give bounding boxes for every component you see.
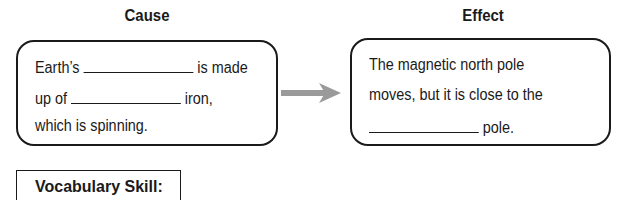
- effect-box: The magnetic north pole moves, but it is…: [350, 38, 611, 146]
- cause-blank-2[interactable]: [71, 87, 181, 104]
- cause-heading: Cause: [94, 6, 200, 26]
- cause-line-3: which is spinning.: [35, 117, 148, 135]
- effect-blank[interactable]: [369, 116, 479, 133]
- cause-blank-1[interactable]: [84, 56, 194, 73]
- vocabulary-skill-label: Vocabulary Skill:: [35, 178, 163, 196]
- vocabulary-skill-box: Vocabulary Skill:: [16, 170, 181, 200]
- effect-line-2: moves, but it is close to the: [369, 86, 543, 104]
- effect-line-3: pole.: [369, 116, 514, 137]
- cause-text: up of: [35, 90, 71, 107]
- effect-text: pole.: [479, 119, 514, 136]
- cause-text: is made: [193, 59, 247, 76]
- cause-text: Earth’s: [35, 59, 84, 76]
- cause-line-1: Earth’s is made: [35, 56, 248, 77]
- effect-heading: Effect: [430, 6, 536, 26]
- right-arrow-icon: [281, 83, 343, 103]
- cause-text: iron,: [181, 90, 213, 107]
- cause-line-2: up of iron,: [35, 87, 213, 108]
- cause-box: Earth’s is made up of iron, which is spi…: [16, 40, 278, 146]
- effect-line-1: The magnetic north pole: [369, 56, 524, 74]
